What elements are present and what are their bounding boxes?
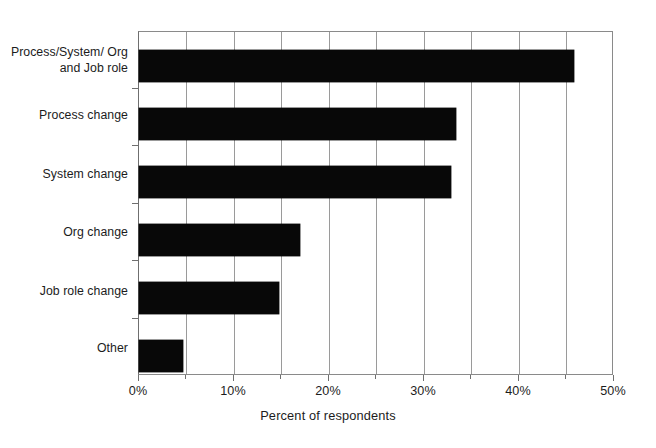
- category-label-line: Other: [0, 341, 128, 357]
- x-axis-title: Percent of respondents: [0, 408, 656, 423]
- gridline: [471, 32, 472, 374]
- category-label-line: Process change: [0, 108, 128, 124]
- x-axis-tick: [518, 375, 519, 381]
- bar-chart: Process/System/ Org and Job role Process…: [0, 0, 656, 448]
- category-label-line: Process/System/ Org and Job role: [0, 45, 128, 76]
- x-axis-tick: [423, 375, 424, 381]
- x-axis-tick-label: 20%: [298, 384, 358, 398]
- x-axis-tick: [233, 375, 234, 381]
- plot-area: [138, 31, 613, 375]
- bar-system-change: [139, 166, 451, 198]
- bar-process-change: [139, 108, 456, 140]
- x-axis-tick-label: 30%: [393, 384, 453, 398]
- category-label: Process change: [0, 108, 128, 124]
- x-axis-tick-minor: [565, 375, 566, 379]
- bar-org-change: [139, 224, 300, 256]
- x-axis-tick-label: 10%: [203, 384, 263, 398]
- gridline: [234, 32, 235, 374]
- bar-other: [139, 340, 183, 372]
- category-label-line: Job role change: [0, 284, 128, 300]
- gridline: [519, 32, 520, 374]
- x-axis-tick-label: 40%: [488, 384, 548, 398]
- gridline: [186, 32, 187, 374]
- category-label: Job role change: [0, 284, 128, 300]
- gridline: [566, 32, 567, 374]
- category-label: Process/System/ Org and Job role: [0, 45, 128, 76]
- x-axis-tick-label: 50%: [583, 384, 643, 398]
- category-label: Other: [0, 341, 128, 357]
- category-label-line: Org change: [0, 225, 128, 241]
- bar-job-role-change: [139, 282, 279, 314]
- category-label-line: System change: [0, 167, 128, 183]
- x-axis-tick-minor: [375, 375, 376, 379]
- bar-process-system-org-and-job-role: [139, 50, 574, 82]
- x-axis-tick-label: 0%: [108, 384, 168, 398]
- x-axis-tick-minor: [185, 375, 186, 379]
- x-axis-tick-minor: [280, 375, 281, 379]
- x-axis-tick: [328, 375, 329, 381]
- x-axis-tick: [613, 375, 614, 381]
- category-label: Org change: [0, 225, 128, 241]
- gridline: [281, 32, 282, 374]
- x-axis-tick: [138, 375, 139, 381]
- category-label: System change: [0, 167, 128, 183]
- gridline: [424, 32, 425, 374]
- gridline: [329, 32, 330, 374]
- x-axis-tick-minor: [470, 375, 471, 379]
- gridline: [376, 32, 377, 374]
